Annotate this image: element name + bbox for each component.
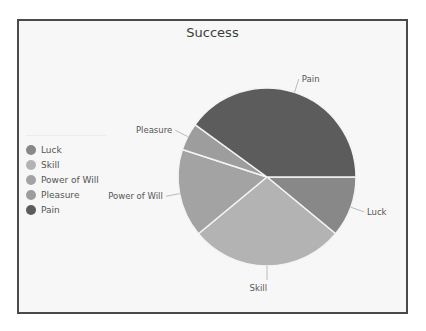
slice-label: Skill [250, 283, 267, 293]
slice-label: Power of Will [108, 191, 163, 201]
leader-line [175, 130, 187, 136]
leader-line [166, 194, 180, 197]
slice-label: Pain [302, 74, 320, 84]
leader-line [351, 207, 364, 212]
pie-chart: LuckSkillPower of WillPleasurePain [0, 0, 426, 331]
leader-line [295, 79, 299, 92]
slice-label: Luck [367, 207, 387, 217]
slice-label: Pleasure [136, 125, 172, 135]
